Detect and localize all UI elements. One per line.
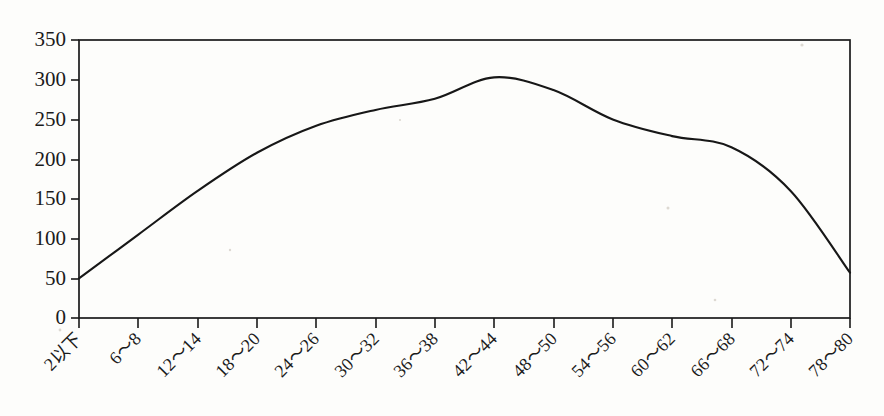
plot-frame [79, 40, 850, 318]
y-tick-label: 50 [45, 266, 66, 290]
y-tick-200: 200 [35, 147, 80, 171]
x-tick-label: 54～56 [568, 329, 620, 381]
paper-specks [59, 43, 804, 331]
x-tick-label: 36～38 [390, 329, 442, 381]
line-chart-figure: 350 300 250 200 150 [0, 0, 884, 416]
y-tick-350: 350 [35, 27, 80, 51]
y-tick-150: 150 [35, 186, 80, 210]
x-tick-label: 2以下 [40, 329, 86, 375]
x-tick-label: 12～14 [153, 329, 205, 381]
y-tick-label: 350 [35, 27, 67, 51]
x-tick-labels: 2以下 6～8 12～14 18～20 24～26 30～32 36～38 42… [40, 329, 857, 381]
y-tick-label: 100 [35, 226, 67, 250]
x-tick-label: 24～26 [271, 329, 323, 381]
y-tick-label: 300 [35, 67, 67, 91]
y-tick-250: 250 [35, 107, 80, 131]
x-axis [79, 318, 850, 328]
y-tick-0: 0 [56, 305, 80, 329]
y-tick-300: 300 [35, 67, 80, 91]
y-tick-label: 150 [35, 186, 67, 210]
x-tick-label: 66～68 [687, 329, 739, 381]
y-tick-label: 250 [35, 107, 67, 131]
chart-page: 350 300 250 200 150 [0, 0, 884, 416]
chart-canvas: 350 300 250 200 150 [0, 0, 884, 416]
y-tick-50: 50 [45, 266, 79, 290]
y-tick-label: 0 [56, 305, 67, 329]
x-tick-label: 6～8 [105, 329, 145, 369]
y-tick-100: 100 [35, 226, 80, 250]
x-tick-label: 48～50 [509, 329, 561, 381]
x-tick-label: 18～20 [212, 329, 264, 381]
x-tick-label: 72～74 [746, 329, 798, 381]
data-series-line [79, 77, 850, 278]
y-tick-label: 200 [35, 147, 67, 171]
x-tick-label: 78～80 [805, 329, 857, 381]
x-tick-label: 42～44 [449, 329, 501, 381]
x-tick-label: 60～62 [627, 329, 679, 381]
y-axis: 350 300 250 200 150 [35, 27, 80, 329]
x-tick-label: 30～32 [331, 329, 383, 381]
